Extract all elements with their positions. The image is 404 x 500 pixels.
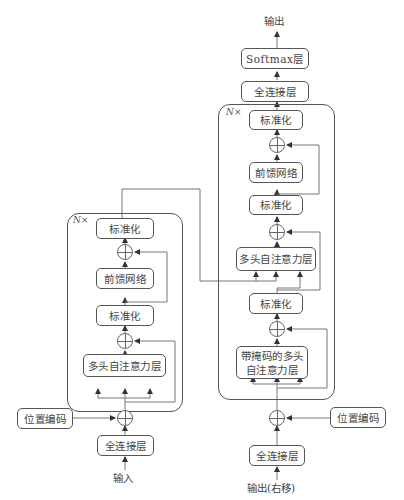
encoder-add-1 xyxy=(117,333,133,349)
decoder-input-label: 输出(右移) xyxy=(247,480,295,495)
decoder-add-3 xyxy=(269,137,285,153)
decoder-output-label: 输出 xyxy=(264,13,284,28)
decoder-norm3: 标准化 xyxy=(249,110,303,130)
encoder-embedding: 全连接层 xyxy=(97,435,154,456)
encoder-ffn: 前馈网络 xyxy=(96,268,154,289)
encoder-norm2: 标准化 xyxy=(96,218,154,239)
decoder-output-linear: 全连接层 xyxy=(241,81,309,102)
decoder-softmax: Softmax层 xyxy=(241,48,309,69)
decoder-position-add xyxy=(269,410,285,426)
encoder-position-add xyxy=(117,410,133,426)
encoder-repeat-label: N× xyxy=(73,215,88,225)
encoder-positional-encoding: 位置编码 xyxy=(17,408,73,429)
decoder-repeat-label: N× xyxy=(226,107,241,117)
decoder-positional-encoding: 位置编码 xyxy=(330,407,386,428)
decoder-norm1: 标准化 xyxy=(249,293,303,314)
encoder-norm1: 标准化 xyxy=(96,305,154,326)
decoder-cross-attention: 多头自注意力层 xyxy=(236,247,316,271)
decoder-embedding: 全连接层 xyxy=(249,445,305,466)
decoder-add-1 xyxy=(269,321,285,337)
decoder-add-2 xyxy=(269,224,285,240)
encoder-add-2 xyxy=(117,244,133,260)
decoder-masked-attention: 带掩码的多头自注意力层 xyxy=(236,346,308,379)
encoder-attention: 多头自注意力层 xyxy=(83,354,166,377)
decoder-ffn: 前馈网络 xyxy=(249,162,303,183)
decoder-norm2: 标准化 xyxy=(249,195,303,215)
encoder-input-label: 输入 xyxy=(113,470,133,485)
